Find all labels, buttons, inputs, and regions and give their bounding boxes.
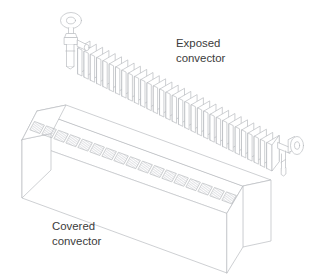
right-valve-handwheel-hub: [294, 142, 299, 150]
covered-convector-label-line2: convector: [52, 235, 102, 247]
left-valve-body: [65, 38, 78, 45]
covered-convector-label-line1: Covered: [52, 220, 95, 232]
convector-diagram-svg: Exposed convector Covered convector: [0, 0, 313, 276]
left-valve-bonnet: [65, 34, 77, 38]
left-valve-handwheel-hub: [67, 17, 76, 24]
exposed-convector-label-line2: convector: [176, 52, 226, 64]
right-valve-downpipe-end: [281, 168, 286, 176]
left-valve-outlet-face: [84, 44, 89, 50]
left-valve-downpipe: [67, 45, 75, 67]
diagram-canvas: Exposed convector Covered convector: [0, 0, 313, 276]
left-valve-stem: [69, 28, 74, 34]
covered-convector-right-endcap: [243, 180, 271, 247]
exposed-convector-label-line1: Exposed: [176, 37, 220, 49]
